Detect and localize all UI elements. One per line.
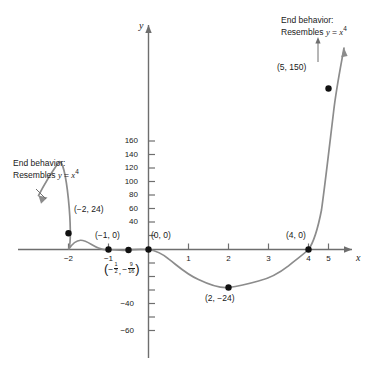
fraction-nine-sixteenths: 9 16 xyxy=(128,262,135,275)
y-tick-label-160: 160 xyxy=(116,136,138,145)
annotation-left-equals: = xyxy=(62,170,72,180)
point-5-150 xyxy=(325,85,331,91)
point-label-minus2-24: (−2, 24) xyxy=(74,204,104,214)
point-label-5-150: (5, 150) xyxy=(277,62,306,72)
fraction-nine-sixteenths-numerator: 9 xyxy=(129,262,133,268)
right-end-behavior-arrow xyxy=(341,48,347,57)
point-minus1-0 xyxy=(105,246,111,252)
point-label-half-fraction: ( − 1 2 , − 9 16 ) xyxy=(104,262,139,275)
annotation-right-line2: Resembles y = x4 xyxy=(281,27,347,39)
annotation-end-behavior-left: End behavior: Resembles y = x4 xyxy=(13,158,79,181)
y-axis-label: y xyxy=(139,20,143,31)
x-tick-label-1: 1 xyxy=(181,254,197,263)
y-tick-label-minus40: −40 xyxy=(112,299,134,308)
point-0-0 xyxy=(145,246,151,252)
x-tick-label-3: 3 xyxy=(261,254,277,263)
point-label-0-0: (0, 0) xyxy=(151,230,171,240)
x-axis-arrow xyxy=(344,246,352,252)
x-tick-label-5: 5 xyxy=(321,254,337,263)
chart-figure: 160 140 120 100 80 60 40 −40 −60 −2 −1 1… xyxy=(0,0,376,368)
y-tick-label-140: 140 xyxy=(116,150,138,159)
y-tick-label-80: 80 xyxy=(116,190,138,199)
x-tick-label-minus2: −2 xyxy=(61,254,77,263)
fraction-comma: , xyxy=(118,266,122,276)
annotation-right-prefix: Resembles xyxy=(281,27,326,37)
y-tick-label-120: 120 xyxy=(116,163,138,172)
annotation-right-line1: End behavior: xyxy=(281,15,347,27)
x-tick-label-4: 4 xyxy=(301,254,317,263)
y-tick-label-minus60: −60 xyxy=(112,326,134,335)
point-label-2-minus24: (2, −24) xyxy=(205,293,235,303)
x-axis-label: x xyxy=(356,252,360,263)
annotation-left-exponent: 4 xyxy=(75,168,79,175)
annotation-left-prefix: Resembles xyxy=(13,170,58,180)
y-axis-arrow xyxy=(145,25,151,33)
y-tick-label-60: 60 xyxy=(116,204,138,213)
annotation-right-equals: = xyxy=(330,27,340,37)
fraction-close-paren: ) xyxy=(135,264,139,273)
plot-canvas xyxy=(0,0,376,368)
annotation-end-behavior-right: End behavior: Resembles y = x4 xyxy=(281,15,347,38)
point-label-minus1-0: (−1, 0) xyxy=(95,230,120,240)
fraction-nine-sixteenths-denominator: 16 xyxy=(128,269,135,275)
fraction-first-negative: − xyxy=(108,264,113,274)
function-curve xyxy=(39,48,345,288)
point-2-minus24 xyxy=(225,284,231,290)
left-end-behavior-arrow xyxy=(39,196,48,204)
annotation-right-exponent: 4 xyxy=(343,25,347,32)
point-label-4-0: (4, 0) xyxy=(286,230,306,240)
point-half-frac xyxy=(125,247,131,253)
y-tick-label-40: 40 xyxy=(116,217,138,226)
point-4-0 xyxy=(305,246,311,252)
fraction-second-negative: − xyxy=(122,264,127,274)
annotation-left-line1: End behavior: xyxy=(13,158,79,170)
x-tick-label-2: 2 xyxy=(221,254,237,263)
point-minus2-24 xyxy=(65,230,71,236)
annotation-left-line2: Resembles y = x4 xyxy=(13,170,79,182)
y-tick-label-100: 100 xyxy=(116,177,138,186)
